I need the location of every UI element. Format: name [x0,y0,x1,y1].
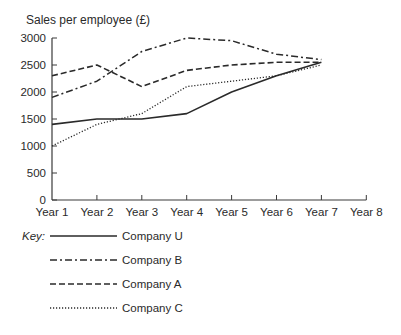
y-tick-label: 0 [40,194,46,206]
x-tick-label: Year 5 [215,206,248,218]
legend-item: Company A [50,278,182,290]
legend-item: Company B [50,254,182,266]
x-tick-label: Year 6 [260,206,293,218]
legend-label: Company U [122,230,183,242]
y-tick-label: 2500 [20,59,46,71]
legend: Company UCompany BCompany ACompany C [50,230,183,314]
x-tick-label: Year 3 [125,206,158,218]
legend-item: Company C [50,302,183,314]
series-lines [52,38,321,146]
legend-title: Key: [22,230,45,242]
legend-label: Company A [122,278,182,290]
x-tick-label: Year 7 [305,206,338,218]
y-tick-label: 2000 [20,86,46,98]
series-company-b [52,38,321,97]
x-tick-label: Year 8 [350,206,383,218]
chart-title: Sales per employee (£) [26,13,150,27]
legend-label: Company C [122,302,183,314]
line-chart: Sales per employee (£) 05001000150020002… [0,0,401,335]
x-tick-label: Year 1 [36,206,69,218]
y-tick-label: 3000 [20,32,46,44]
x-tick-label: Year 2 [80,206,113,218]
x-axis-ticks: Year 1Year 2Year 3Year 4Year 5Year 6Year… [36,195,383,218]
y-tick-label: 500 [27,167,46,179]
y-tick-label: 1500 [20,113,46,125]
series-company-c [52,65,321,146]
x-tick-label: Year 4 [170,206,203,218]
y-tick-label: 1000 [20,140,46,152]
series-company-u [52,62,321,124]
legend-label: Company B [122,254,182,266]
legend-item: Company U [50,230,183,242]
